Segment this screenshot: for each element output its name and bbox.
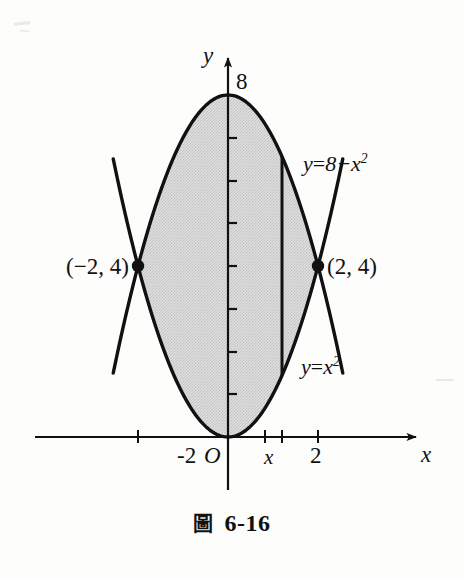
equation-upper-lhs: y [303, 151, 313, 176]
figure-caption: 圖6-16 [0, 508, 463, 537]
figure-caption-number: 6-16 [225, 510, 271, 536]
intersection-dot-right [312, 260, 324, 272]
equation-lower-exponent: 2 [333, 354, 340, 369]
figure-container: y x 8 -2 2 O x (−2, 4) (2, 4) y=8−x2 y=x… [0, 0, 463, 578]
x-tick-label-2: 2 [310, 444, 322, 467]
point-label-right: (2, 4) [327, 255, 377, 278]
equation-lower-equals: = [311, 354, 323, 379]
y-axis-label: y [203, 44, 213, 67]
equation-label-upper: y=8−x2 [303, 152, 368, 175]
point-label-left: (−2, 4) [66, 255, 129, 278]
x-axis-label: x [421, 443, 431, 466]
equation-upper-rhs: 8−x [325, 151, 361, 176]
plot-canvas [0, 0, 463, 578]
x-tick-label-neg2: -2 [177, 444, 196, 467]
equation-upper-exponent: 2 [361, 151, 368, 166]
equation-lower-lhs: y [301, 354, 311, 379]
origin-label: O [204, 444, 221, 467]
intersection-dot-left [132, 260, 144, 272]
equation-lower-rhs: x [323, 354, 333, 379]
y-tick-label-8: 8 [236, 70, 248, 93]
equation-label-lower: y=x2 [301, 355, 340, 378]
equation-upper-equals: = [313, 151, 325, 176]
scan-artifact [436, 379, 454, 381]
figure-caption-mark: 圖 [193, 512, 213, 536]
strip-x-label: x [264, 447, 273, 468]
